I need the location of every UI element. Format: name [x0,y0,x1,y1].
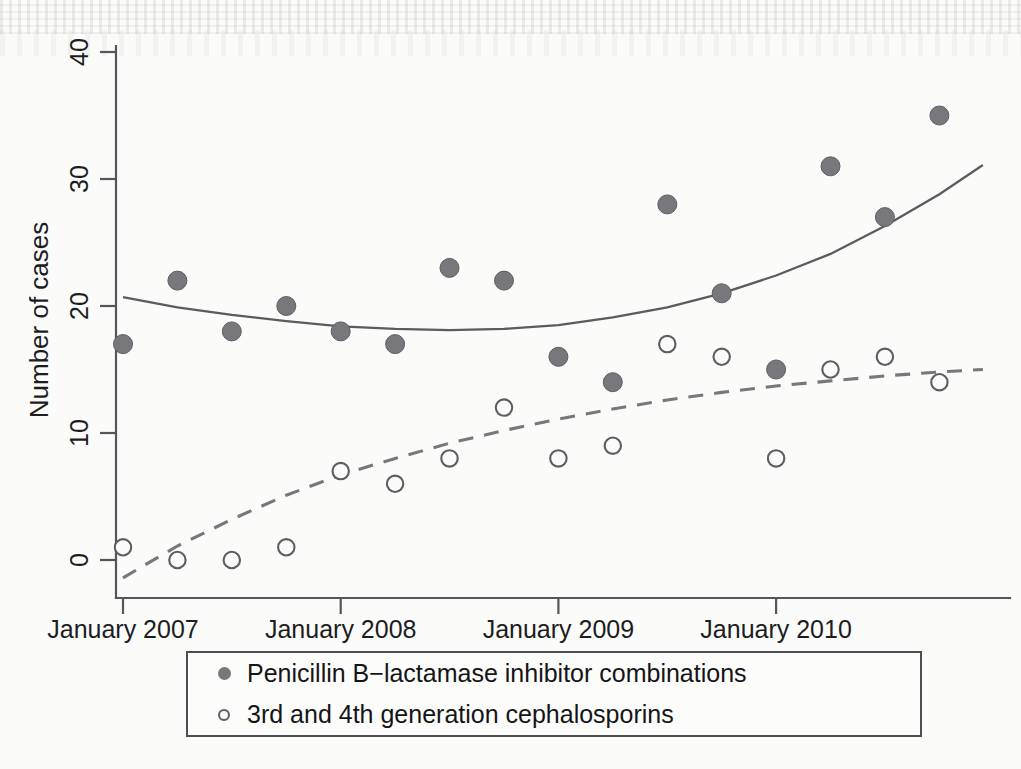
data-point-open [224,552,240,568]
legend-label-penicillin: Penicillin B−lactamase inhibitor combina… [247,659,747,688]
data-point-filled [875,208,894,227]
x-axis-ticks: January 2007January 2008January 2009Janu… [47,598,852,643]
trend-line-dashed [123,370,983,578]
data-point-filled [114,335,133,354]
data-point-open [931,374,947,390]
data-point-filled [930,106,949,125]
y-axis-ticks: 010203040 [65,38,116,567]
data-point-open [768,450,784,466]
y-axis-title: Number of cases [24,222,54,419]
y-tick-label: 40 [65,38,93,66]
data-point-open [387,476,403,492]
data-point-filled [767,360,786,379]
data-point-open [115,539,131,555]
data-point-open [441,450,457,466]
y-tick-label: 10 [65,419,93,447]
x-tick-label: January 2007 [47,615,199,643]
data-point-filled [440,258,459,277]
data-point-open [659,336,675,352]
data-point-open [333,463,349,479]
chart-legend: Penicillin B−lactamase inhibitor combina… [186,651,922,737]
trend-line-solid [123,165,983,330]
legend-item-cephalosporins: 3rd and 4th generation cephalosporins [188,694,920,735]
plot-axes [116,46,1010,598]
data-point-filled [331,322,350,341]
data-point-filled [603,373,622,392]
x-tick-label: January 2009 [483,615,635,643]
data-point-filled [277,297,296,316]
data-point-open [822,361,838,377]
trend-lines [123,165,983,578]
legend-item-penicillin: Penicillin B−lactamase inhibitor combina… [188,653,920,694]
y-tick-label: 30 [65,165,93,193]
data-point-filled [222,322,241,341]
data-point-open [496,399,512,415]
data-point-filled [658,195,677,214]
data-point-filled [386,335,405,354]
data-point-open [605,438,621,454]
data-point-open [278,539,294,555]
open-circle-icon [211,709,237,721]
data-point-filled [821,157,840,176]
x-tick-label: January 2010 [700,615,852,643]
data-point-open [550,450,566,466]
data-point-open [714,349,730,365]
data-points [114,106,949,568]
y-tick-label: 0 [65,553,93,567]
data-point-filled [168,271,187,290]
data-point-open [169,552,185,568]
legend-label-cephalosporins: 3rd and 4th generation cephalosporins [247,700,674,729]
x-tick-label: January 2008 [265,615,417,643]
filled-circle-icon [211,667,237,680]
chart-figure: 010203040 January 2007January 2008Januar… [0,0,1021,769]
data-point-filled [549,347,568,366]
data-point-filled [495,271,514,290]
data-point-open [877,349,893,365]
data-point-filled [712,284,731,303]
y-tick-label: 20 [65,292,93,320]
